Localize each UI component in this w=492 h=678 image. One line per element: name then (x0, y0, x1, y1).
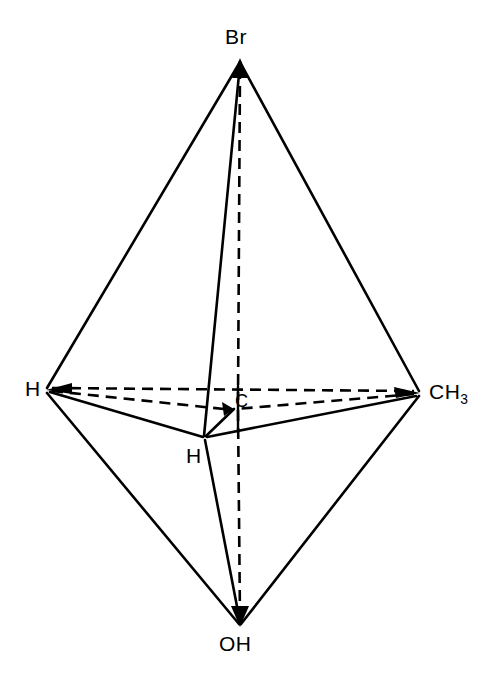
figure-canvas: Br H CH3 C H OH (0, 0, 492, 678)
atom-label-bromine: Br (225, 26, 247, 47)
methyl-subscript: 3 (460, 391, 468, 407)
bond-c-oh-dashed (238, 410, 240, 618)
atom-label-carbon-center: C (235, 392, 249, 410)
edge-br-hfront (204, 64, 240, 436)
solid-front-group (50, 64, 416, 622)
atom-label-hydrogen-left: H (25, 378, 41, 399)
edge-br-ch3 (240, 62, 419, 391)
molecule-diagram (0, 0, 492, 678)
dashed-bonds-group (52, 68, 414, 618)
edge-hleft-ch3-dashed (52, 388, 414, 391)
atom-label-hydroxyl: OH (219, 633, 252, 654)
atom-label-methyl: CH3 (429, 381, 469, 407)
bond-br-c-dashed (238, 68, 240, 400)
methyl-text: CH (429, 380, 460, 403)
edge-ch3-oh (241, 396, 419, 624)
edge-br-hleft (47, 62, 240, 388)
edge-hfront-oh (205, 440, 240, 622)
vertex-marker-br (232, 58, 248, 78)
edge-hleft-oh (47, 393, 239, 624)
atom-label-hydrogen-front: H (186, 445, 202, 466)
